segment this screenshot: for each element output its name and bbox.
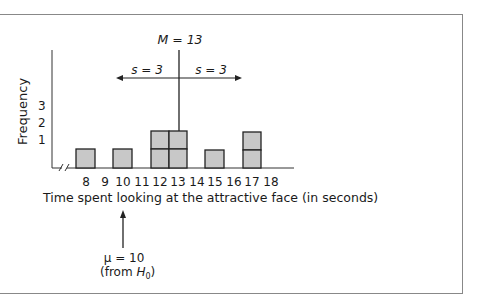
x-tick: 16 <box>226 175 241 189</box>
y-tick-1: 1 <box>38 133 46 147</box>
sd-right-label: s = 3 <box>195 63 227 77</box>
bar-12-top <box>151 131 169 149</box>
bar-8 <box>76 149 95 168</box>
bar-17-top <box>243 132 261 150</box>
x-tick: 12 <box>152 175 167 189</box>
sd-left-label: s = 3 <box>131 63 163 77</box>
arrow-up-icon <box>120 210 126 218</box>
x-axis-label: Time spent looking at the attractive fac… <box>42 190 378 205</box>
bar-10 <box>113 149 132 168</box>
mu-source-label: (from H0) <box>100 265 155 281</box>
x-tick: 18 <box>263 175 278 189</box>
y-tick-3: 3 <box>38 99 46 113</box>
x-tick: 8 <box>82 175 90 189</box>
y-axis-label: Frequency <box>15 78 30 145</box>
x-tick: 10 <box>115 175 130 189</box>
bar-12 <box>151 149 169 168</box>
x-tick: 15 <box>207 175 222 189</box>
bar-17 <box>243 150 261 168</box>
bar-15 <box>205 150 224 168</box>
x-ticks: 8 9 10 11 12 13 14 15 16 17 18 <box>82 175 278 189</box>
mean-label: M = 13 <box>157 32 202 47</box>
arrow-left-icon <box>116 75 123 81</box>
y-tick-2: 2 <box>38 116 46 130</box>
x-tick: 14 <box>189 175 204 189</box>
mu-label: μ = 10 <box>104 251 145 265</box>
x-tick: 11 <box>134 175 149 189</box>
histogram-chart: 1 2 3 Frequency 8 9 10 11 12 13 14 15 16… <box>0 0 479 299</box>
arrow-right-icon <box>235 75 242 81</box>
x-tick: 17 <box>244 175 259 189</box>
bar-13-top <box>169 131 187 149</box>
x-tick: 9 <box>101 175 109 189</box>
x-tick: 13 <box>170 175 185 189</box>
histogram-bars <box>76 131 261 168</box>
bar-13 <box>169 149 187 168</box>
